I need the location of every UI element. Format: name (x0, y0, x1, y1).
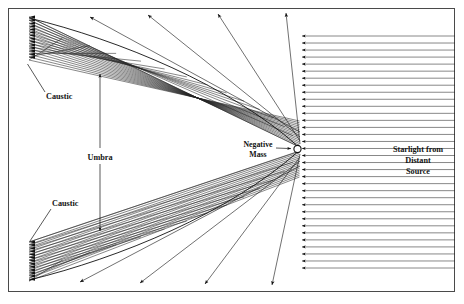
figure-page: Caustic Caustic Umbra Negative Mass Star… (0, 0, 464, 304)
negative-mass-lensing-diagram: Caustic Caustic Umbra Negative Mass Star… (0, 0, 464, 304)
umbra-label: Umbra (87, 153, 112, 162)
negative-mass-point (294, 145, 301, 152)
starlight-label-line3: Source (406, 167, 430, 176)
caustic-bottom-label: Caustic (52, 199, 79, 208)
caustic-top-label: Caustic (46, 92, 73, 101)
starlight-label-line2: Distant (405, 156, 431, 165)
negative-mass-label-line1: Negative (243, 140, 273, 149)
starlight-label-line1: Starlight from (393, 145, 443, 154)
negative-mass-label-line2: Mass (249, 150, 266, 159)
